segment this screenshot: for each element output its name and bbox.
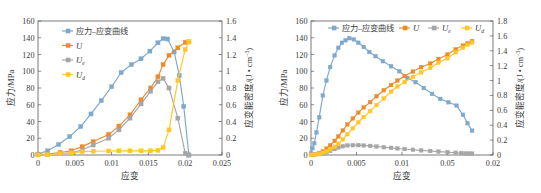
series-marker: [107, 136, 111, 140]
series-marker: [380, 59, 384, 63]
series-marker: [381, 97, 385, 101]
x-tick-label: 0.015: [139, 159, 157, 168]
series-marker: [161, 36, 165, 40]
y-left-tick-label: 40: [26, 118, 34, 127]
series-marker: [374, 103, 378, 107]
y-right-tick-label: 1.6: [226, 17, 236, 26]
y-right-tick-label: 0.6: [497, 106, 507, 115]
series-marker: [361, 144, 365, 148]
series-marker: [402, 74, 406, 78]
legend-label-base: 应力–应变曲线: [76, 26, 128, 36]
series-marker: [332, 145, 336, 149]
series-marker: [91, 149, 95, 153]
x-axis-title: 应变: [393, 170, 411, 181]
series-marker: [413, 80, 417, 84]
series-marker: [340, 137, 344, 141]
right-chart-svg: 00.0050.010.050.020204060801001201401600…: [271, 0, 541, 193]
series-marker: [139, 149, 143, 153]
x-tick-label: 0: [308, 159, 312, 168]
y-right-axis-title-text: 应变能密度/(J • cm−3): [243, 48, 254, 128]
series-marker: [465, 121, 469, 125]
series-marker: [165, 37, 169, 41]
series-marker: [149, 149, 153, 153]
series-marker: [374, 94, 378, 98]
series-marker: [361, 105, 365, 109]
series-marker: [419, 70, 423, 74]
series-marker: [161, 76, 165, 80]
legend-label-sub: d: [481, 28, 484, 34]
y-left-tick-label: 80: [26, 84, 34, 93]
series-marker: [402, 80, 406, 84]
y-right-tick-label: 1.8: [497, 17, 507, 26]
series-marker: [332, 53, 336, 57]
y-left-axis-title: 应力/MPa: [278, 70, 289, 107]
series-marker: [117, 128, 121, 132]
y-right-tick-label: 1.6: [497, 32, 507, 41]
series-marker: [107, 149, 111, 153]
y-left-tick-label: 100: [295, 67, 307, 76]
series-marker: [312, 153, 316, 157]
y-right-tick-label: 0.2: [226, 134, 236, 143]
series-marker: [453, 50, 457, 54]
series-marker: [324, 149, 328, 153]
series-marker: [328, 148, 332, 152]
series-marker: [80, 150, 84, 154]
left-chart-svg: 00.0050.010.0150.020.0250204060801001201…: [0, 0, 271, 193]
series-marker: [156, 80, 160, 84]
series-marker: [343, 38, 347, 42]
y-left-tick-label: 40: [299, 118, 307, 127]
y-right-tick-label: 0: [226, 151, 230, 160]
y-left-tick-label: 160: [22, 17, 34, 26]
series-marker: [139, 102, 143, 106]
series-marker: [336, 142, 340, 146]
legend-swatch-u: [62, 43, 73, 47]
series-marker: [161, 145, 165, 149]
series-marker: [436, 150, 440, 154]
legend-marker: [66, 72, 70, 76]
legend-label-ud: Ud: [76, 70, 85, 81]
y-left-tick-label: 0: [30, 151, 34, 160]
series-marker: [317, 152, 321, 156]
series-marker: [461, 46, 465, 50]
y-left-tick-label: 0: [303, 151, 307, 160]
series-marker: [356, 143, 360, 147]
series-marker: [328, 65, 332, 69]
series-marker: [139, 57, 143, 61]
series-marker: [421, 86, 425, 90]
series-marker: [350, 143, 354, 147]
series-marker: [470, 152, 474, 156]
legend-label-sub: d: [82, 75, 85, 81]
series-marker: [356, 111, 360, 115]
x-tick-label: 0.005: [66, 159, 84, 168]
legend-label-base: U: [76, 41, 83, 51]
series-marker: [397, 69, 401, 73]
series-marker: [411, 70, 415, 74]
series-marker: [187, 40, 191, 44]
series-marker: [395, 147, 399, 151]
x-tick-label: 0.02: [178, 159, 192, 168]
series-marker: [436, 61, 440, 65]
y-left-tick-label: 120: [22, 51, 34, 60]
legend-label-sub: e: [82, 60, 85, 66]
series-marker: [148, 49, 152, 53]
series-marker: [459, 151, 463, 155]
series-marker: [411, 148, 415, 152]
series-marker: [438, 97, 442, 101]
series-marker: [336, 46, 340, 50]
series-marker: [389, 64, 393, 68]
series-marker: [320, 151, 324, 155]
figure-container: 00.0050.010.0150.020.0250204060801001201…: [0, 0, 541, 193]
legend-label-u: U: [76, 41, 83, 51]
series-marker: [411, 75, 415, 79]
series-marker: [69, 151, 73, 155]
series-marker: [445, 53, 449, 57]
legend-swatch-stress-strain: [328, 26, 339, 30]
y-left-axis-title: 应力/MPa: [5, 70, 16, 107]
series-marker: [368, 100, 372, 104]
legend-label-ud: Ud: [475, 23, 484, 34]
series-marker: [351, 38, 355, 42]
y-right-tick-label: 1.4: [226, 34, 236, 43]
series-marker: [107, 132, 111, 136]
series-marker: [430, 92, 434, 96]
series-marker: [453, 151, 457, 155]
